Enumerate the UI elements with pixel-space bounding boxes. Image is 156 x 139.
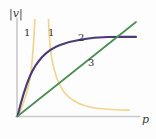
curve-label-2: 2 <box>78 33 84 43</box>
curve-label-3: 3 <box>88 58 94 68</box>
plot-figure: |v| p 1 1 2 3 <box>0 0 156 139</box>
plot-canvas <box>0 0 156 139</box>
curve-label-1-left: 1 <box>24 28 30 38</box>
curve-2-saturating <box>18 37 137 116</box>
curve-label-1-right: 1 <box>48 28 54 38</box>
y-axis-label: |v| <box>9 8 23 19</box>
x-axis-label: p <box>142 114 149 125</box>
